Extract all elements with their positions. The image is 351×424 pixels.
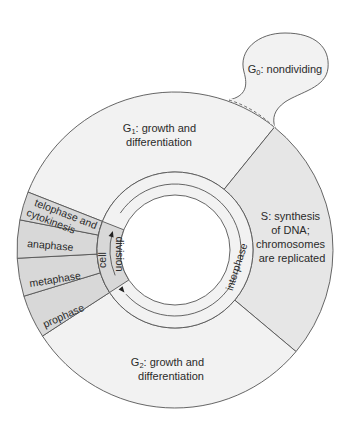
center-hole [120, 195, 230, 305]
cell-division-label-division: division [114, 236, 126, 271]
cell-division-label-cell: cell [96, 252, 108, 268]
cell-cycle-diagram: G0: nondividing G1: growth and different… [0, 0, 351, 424]
